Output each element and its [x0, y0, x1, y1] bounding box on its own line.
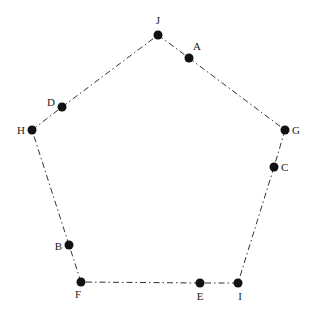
node-g	[281, 126, 290, 135]
node-label-h: H	[17, 124, 25, 136]
nodes-group	[28, 31, 290, 288]
node-e	[196, 279, 205, 288]
edge-f-b	[69, 245, 81, 282]
edge-j-a	[158, 35, 189, 58]
node-label-d: D	[47, 96, 55, 108]
node-c	[270, 163, 279, 172]
edge-d-j	[62, 35, 158, 107]
edge-c-i	[238, 167, 274, 283]
edge-a-g	[189, 58, 285, 130]
node-a	[185, 54, 194, 63]
node-label-c: C	[281, 161, 288, 173]
node-label-j: J	[156, 14, 161, 26]
node-label-g: G	[292, 124, 300, 136]
node-label-a: A	[193, 40, 201, 52]
labels-group: JAGCIEFBHD	[17, 14, 300, 302]
node-label-e: E	[197, 290, 204, 302]
node-label-i: I	[238, 290, 242, 302]
node-h	[28, 126, 37, 135]
node-label-f: F	[75, 288, 81, 300]
node-label-b: B	[55, 240, 62, 252]
node-d	[58, 103, 67, 112]
node-i	[234, 279, 243, 288]
edge-h-d	[32, 107, 62, 130]
edge-b-h	[32, 130, 69, 245]
pentagon-diagram: JAGCIEFBHD	[0, 0, 315, 317]
node-f	[77, 278, 86, 287]
node-j	[154, 31, 163, 40]
node-b	[65, 241, 74, 250]
edge-e-f	[81, 282, 200, 283]
